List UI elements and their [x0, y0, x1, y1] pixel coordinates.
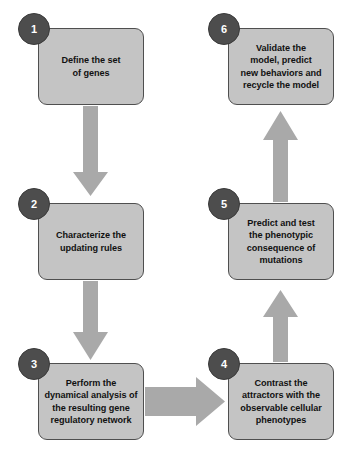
arrow-step2-to-step3: [73, 281, 108, 360]
flow-node-box-step-6[interactable]: Validate the model, predict new behavior…: [228, 28, 334, 105]
flow-node-badge-step-1: 1: [18, 13, 50, 45]
arrow-step3-to-step4: [145, 377, 225, 426]
flow-node-box-step-5[interactable]: Predict and test the phenotypic conseque…: [228, 203, 334, 280]
flow-node-box-step-1[interactable]: Define the set of genes: [38, 28, 144, 105]
flow-node-box-step-2[interactable]: Characterize the updating rules: [38, 203, 144, 280]
arrow-step1-to-step2: [73, 106, 108, 196]
flow-node-badge-step-2: 2: [18, 188, 50, 220]
flow-node-badge-step-4: 4: [208, 348, 240, 380]
flow-node-box-step-4[interactable]: Contrast the attractors with the observa…: [228, 363, 334, 440]
flow-node-badge-step-6: 6: [208, 13, 240, 45]
flowchart-diagram: Define the set of genes 1 Characterize t…: [0, 0, 343, 454]
arrow-step4-to-step5: [263, 290, 298, 362]
flow-node-badge-step-3: 3: [18, 348, 50, 380]
flow-node-box-step-3[interactable]: Perform the dynamical analysis of the re…: [38, 363, 144, 440]
arrow-step5-to-step6: [263, 111, 298, 202]
flow-node-badge-step-5: 5: [208, 188, 240, 220]
